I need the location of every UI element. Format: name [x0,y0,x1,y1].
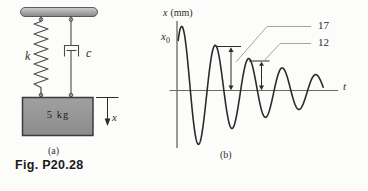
y-axis-var: x [163,7,167,18]
y-axis-label: x(mm) [163,8,193,18]
response-curve [178,26,323,144]
mass-value-label: 5 kg [23,109,93,120]
initial-displacement-label: x0 [161,31,170,45]
figure-p20-28: k c 5 kg x (a) x(mm) x0 t 17 12 (b) Fig.… [0,0,368,191]
damping-coefficient-label: c [86,47,91,59]
displacement-var-label: x [112,112,117,123]
ceiling-support [21,8,98,17]
peak-value-12-label: 12 [318,37,329,48]
t-axis-label: t [343,81,346,92]
panel-a-caption: (a) [48,146,59,156]
panel-b-graph [170,21,339,148]
peak-value-17-label: 17 [318,20,329,31]
spring-constant-label: k [25,50,30,62]
leader-line-12 [263,44,311,63]
damper-icon [65,17,79,98]
panel-b-caption: (b) [220,150,232,160]
peak-measure-arrow-17 [216,47,242,91]
figure-number-label: Fig. P20.28 [15,158,84,172]
x0-subscript: 0 [166,36,170,45]
leader-line-17 [236,27,311,63]
spring-icon [34,17,48,98]
y-axis-unit: (mm) [170,7,192,18]
